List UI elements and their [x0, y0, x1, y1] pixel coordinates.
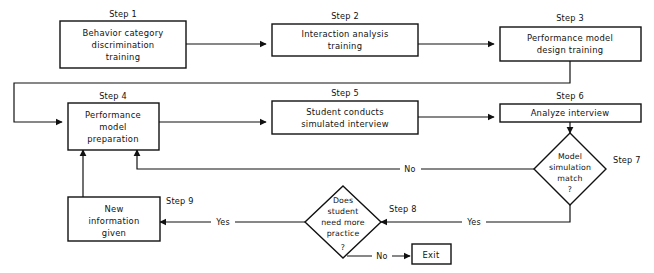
step9-text-line-3: given — [102, 228, 126, 238]
node-step2[interactable]: Step 2 Interaction analysis training — [272, 11, 418, 56]
node-step9[interactable]: Step 9 New information given — [68, 196, 194, 241]
step3-text-line-2: design training — [537, 45, 604, 55]
step7-text-line-1: Model — [558, 152, 582, 161]
step8-text-line-5: ? — [341, 243, 345, 252]
step7-text-line-4: ? — [568, 185, 572, 194]
node-step3[interactable]: Step 3 Performance model design training — [500, 13, 641, 61]
step5-text-line-2: simulated interview — [301, 119, 389, 129]
node-step1[interactable]: Step 1 Behavior category discrimination … — [60, 9, 186, 68]
step8-text-line-2: student — [328, 207, 359, 216]
node-step6[interactable]: Step 6 Analyze interview — [500, 91, 641, 122]
step1-text-line-2: discrimination — [92, 40, 155, 50]
node-step4[interactable]: Step 4 Performance model preparation — [68, 91, 159, 150]
step9-text-line-2: information — [88, 216, 139, 226]
step8-step-label: Step 8 — [389, 204, 417, 214]
step5-step-label: Step 5 — [331, 88, 359, 98]
step3-text-line-1: Performance model — [527, 33, 613, 43]
step4-text-line-1: Performance — [85, 110, 141, 120]
edge-label-yes-step7: Yes — [462, 216, 486, 228]
exit-text-line-1: Exit — [423, 250, 440, 260]
edge-label-yes-step8-text: Yes — [215, 218, 230, 227]
node-exit[interactable]: Exit — [412, 244, 451, 264]
flowchart-svg: Step 1 Behavior category discrimination … — [0, 0, 654, 273]
step7-step-label: Step 7 — [613, 155, 641, 165]
step4-step-label: Step 4 — [99, 91, 127, 101]
connector-step7-step4-no — [137, 150, 534, 169]
step2-text-line-2: training — [328, 41, 362, 51]
step9-text-line-1: New — [104, 204, 123, 214]
step8-text-line-1: Does — [333, 196, 353, 205]
edge-label-no-step8-text: No — [376, 252, 387, 261]
step1-text-line-3: training — [106, 52, 140, 62]
flowchart-canvas: Step 1 Behavior category discrimination … — [0, 0, 654, 273]
step5-text-line-1: Student conducts — [306, 107, 384, 117]
step7-text-line-3: match — [557, 174, 582, 183]
edge-label-no-step8: No — [372, 250, 392, 262]
edge-label-no-step7-text: No — [404, 165, 415, 174]
step6-text-line-1: Analyze interview — [531, 108, 610, 118]
step4-text-line-3: preparation — [87, 134, 139, 144]
edge-label-yes-step7-text: Yes — [466, 218, 481, 227]
node-step5[interactable]: Step 5 Student conducts simulated interv… — [272, 88, 418, 134]
step6-step-label: Step 6 — [556, 91, 584, 101]
edge-label-yes-step8: Yes — [211, 216, 235, 228]
step1-text-line-1: Behavior category — [82, 28, 163, 38]
edge-label-no-step7: No — [400, 163, 421, 175]
step4-text-line-2: model — [99, 122, 126, 132]
step1-step-label: Step 1 — [109, 9, 137, 19]
step8-text-line-4: practice — [327, 229, 360, 238]
step7-text-line-2: simulation — [549, 163, 591, 172]
step8-text-line-3: need more — [321, 218, 365, 227]
step2-step-label: Step 2 — [331, 11, 359, 21]
node-step7[interactable]: Step 7 Model simulation match ? — [534, 133, 641, 205]
step9-step-label: Step 9 — [166, 196, 194, 206]
step2-text-line-1: Interaction analysis — [301, 29, 388, 39]
step3-step-label: Step 3 — [556, 13, 584, 23]
